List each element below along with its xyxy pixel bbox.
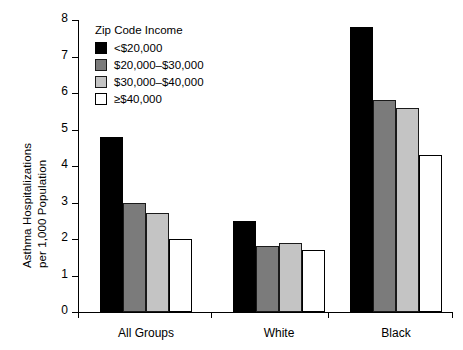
x-axis-group-label: All Groups: [118, 326, 174, 340]
x-axis-group-label: Black: [381, 326, 410, 340]
legend-item: ≥$40,000: [95, 91, 245, 107]
x-axis-tick: [211, 312, 212, 318]
legend-item: $20,000–$30,000: [95, 57, 245, 73]
bar: [146, 213, 169, 312]
y-axis-tick: 6: [72, 93, 78, 94]
y-axis-tick: 1: [72, 276, 78, 277]
bar: [350, 27, 373, 312]
bar: [100, 137, 123, 312]
legend: Zip Code Income <$20,000$20,000–$30,000$…: [95, 24, 245, 108]
y-axis-tick-label: 5: [61, 122, 68, 134]
legend-color-swatch: [95, 59, 107, 71]
x-axis-tick: [78, 312, 79, 318]
bar: [169, 239, 192, 312]
y-axis-tick-label: 3: [61, 195, 68, 207]
y-axis-line: [78, 20, 79, 312]
bar: [396, 108, 419, 312]
y-axis-tick-label: 8: [61, 12, 68, 24]
bar: [256, 246, 279, 312]
bar: [373, 100, 396, 312]
y-axis-tick: 2: [72, 239, 78, 240]
legend-title: Zip Code Income: [95, 24, 245, 36]
legend-color-swatch: [95, 76, 107, 88]
bar: [419, 155, 442, 312]
legend-item: $30,000–$40,000: [95, 74, 245, 90]
bar: [123, 203, 146, 313]
x-axis-tick: [452, 312, 453, 318]
y-axis-tick: 5: [72, 130, 78, 131]
y-axis-tick-label: 1: [61, 268, 68, 280]
legend-entries: <$20,000$20,000–$30,000$30,000–$40,000≥$…: [95, 40, 245, 107]
y-axis-tick-label: 4: [61, 158, 68, 170]
y-axis-tick: 4: [72, 166, 78, 167]
y-axis-tick: 3: [72, 203, 78, 204]
bar: [302, 250, 325, 312]
legend-item: <$20,000: [95, 40, 245, 56]
y-axis-title-line-1: Asthma Hospitalizations: [21, 143, 33, 268]
y-axis-title: Asthma Hospitalizations per 1,000 Popula…: [0, 0, 52, 320]
bar: [279, 243, 302, 312]
y-axis-tick: 8: [72, 20, 78, 21]
legend-color-swatch: [95, 93, 107, 105]
x-axis-group-label: White: [264, 326, 295, 340]
y-axis-tick-label: 0: [61, 304, 68, 316]
y-axis-tick-label: 2: [61, 231, 68, 243]
y-axis-title-line-2: per 1,000 Population: [36, 160, 48, 268]
legend-item-label: $20,000–$30,000: [114, 59, 204, 71]
x-axis-line: [78, 312, 453, 313]
bar: [233, 221, 256, 312]
legend-item-label: ≥$40,000: [114, 93, 162, 105]
legend-item-label: $30,000–$40,000: [114, 76, 204, 88]
y-axis-tick: 7: [72, 57, 78, 58]
x-axis-tick: [328, 312, 329, 318]
legend-color-swatch: [95, 42, 107, 54]
asthma-hospitalizations-bar-chart: Asthma Hospitalizations per 1,000 Popula…: [0, 0, 463, 350]
legend-item-label: <$20,000: [114, 42, 162, 54]
y-axis-tick-label: 7: [61, 49, 68, 61]
y-axis-tick-label: 6: [61, 85, 68, 97]
